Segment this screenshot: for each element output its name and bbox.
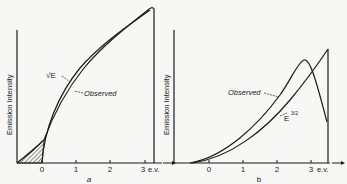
tick-b-0: 0 [207,165,212,174]
tick-b-3: 3 [309,165,314,174]
tick-b-2: 2 [275,165,280,174]
unit-b: e.v. [317,165,329,174]
tick-a-0: 0 [40,165,45,174]
label-sqrt-e: √E [46,71,56,80]
figure: 0 1 2 3 e.v. a Emission Intensity √E Obs… [0,0,347,184]
ylabel-b: Emission Intensity [162,74,171,135]
caption-a: a [87,175,92,184]
tick-a-2: 2 [108,165,113,174]
label-e: E [284,114,289,123]
panel-a: 0 1 2 3 e.v. a Emission Intensity √E Obs… [5,8,176,184]
panel-b: 0 1 2 3 e.v. b Emission Intensity Observ… [162,30,345,184]
tick-a-3: 3 [141,165,146,174]
curve-observed-a [17,8,154,163]
curve-observed-b [190,60,327,163]
unit-a: e.v. [148,165,160,174]
tick-a-1: 1 [74,165,79,174]
curve-e-three-halves [192,49,328,163]
tick-b-1: 1 [241,165,246,174]
label-observed-a: Observed [84,89,117,98]
curve-sqrt-e [42,10,150,163]
arrow-head-icon [341,161,345,165]
ylabel-a: Emission Intensity [5,74,14,135]
label-observed-b: Observed [228,88,261,97]
label-exp: 3/2 [291,110,298,116]
caption-b: b [257,175,262,184]
